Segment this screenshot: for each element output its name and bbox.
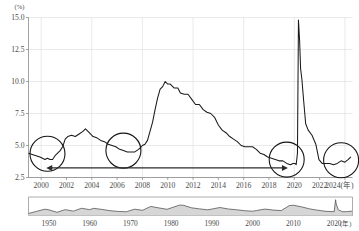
y-axis-unit-label: (%) [15,3,25,11]
x-tick-label-5: 2010 [160,181,175,190]
mini-x-tick-label-2: 1970 [123,219,138,228]
mini-chart: 19501960197019801990200020102020(年) [29,197,353,228]
x-tick-label-1: 2002 [59,181,74,190]
x-tick-label-7: 2014 [211,181,226,190]
span-arrow-group [46,165,288,171]
y-tick-label-2: 10.0 [11,77,24,86]
x-tick-label-3: 2006 [110,181,125,190]
x-tick-label-9: 2018 [261,181,276,190]
y-tick-label-4: 5.0 [15,141,25,150]
mini-x-tick-label-4: 1990 [205,219,220,228]
y-tick-label-5: 2.5 [15,173,25,182]
y-tick-label-1: 12.5 [11,45,24,54]
x-tick-label-8: 2016 [236,181,251,190]
x-tick-label-2: 2004 [84,181,99,190]
mini-x-tick-label-6: 2010 [286,219,301,228]
mini-x-unit-label: (年) [340,219,351,228]
main-plot: 15.012.510.07.55.02.5(%)2000200220042006… [11,3,358,190]
span-arrow-head-right [282,165,288,171]
unemployment-rate-chart: 15.012.510.07.55.02.5(%)2000200220042006… [0,0,359,231]
mini-x-tick-label-5: 2000 [245,219,260,228]
data-line-group [29,20,351,165]
highlight-2000-ellipse [30,136,65,171]
x-tick-label-0: 2000 [34,181,49,190]
x-tick-label-10: 2020 [287,181,302,190]
mini-x-tick-label-1: 1960 [82,219,97,228]
y-tick-label-3: 7.5 [15,109,25,118]
unemployment-rate-line [29,20,351,165]
highlight-2023-ellipse [324,143,359,178]
mini-x-tick-label-3: 1980 [164,219,179,228]
x-tick-label-6: 2012 [185,181,200,190]
mini-x-tick-label-0: 1950 [41,219,56,228]
x-tick-label-12: 2024(年) [325,180,354,190]
chart-figure: 15.012.510.07.55.02.5(%)2000200220042006… [0,0,359,231]
y-tick-label-0: 15.0 [11,13,24,22]
span-arrow-head-left [46,165,52,171]
x-tick-label-4: 2008 [135,181,150,190]
